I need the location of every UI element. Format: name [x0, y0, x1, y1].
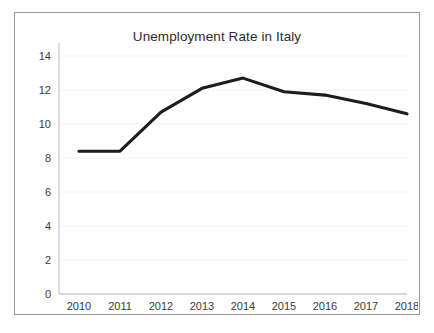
y-tick-label: 4 — [45, 220, 51, 232]
y-tick-label: 8 — [45, 152, 51, 164]
x-tick-label: 2011 — [108, 300, 132, 312]
data-series-line — [79, 78, 407, 151]
y-tick-label: 10 — [39, 118, 51, 130]
x-tick-label: 2013 — [190, 300, 214, 312]
y-tick-label: 6 — [45, 186, 51, 198]
x-tick-label: 2018 — [395, 300, 418, 312]
y-tick-label: 14 — [39, 50, 51, 62]
x-tick-label: 2017 — [354, 300, 378, 312]
x-axis-tick-labels: 2010 2011 2012 2013 2014 2015 2016 2017 … — [67, 300, 418, 312]
x-tick-label: 2010 — [67, 300, 91, 312]
y-tick-label: 12 — [39, 84, 51, 96]
x-tick-label: 2014 — [231, 300, 255, 312]
x-tick-label: 2015 — [272, 300, 296, 312]
chart-frame: Unemployment Rate in Italy 14 12 10 8 6 … — [14, 12, 420, 315]
gridlines-group — [59, 56, 407, 294]
y-axis-tick-labels: 14 12 10 8 6 4 2 0 — [39, 50, 51, 300]
x-tick-label: 2012 — [149, 300, 173, 312]
y-tick-label: 0 — [45, 288, 51, 300]
line-chart-plot: 14 12 10 8 6 4 2 0 2010 2011 2012 2013 2… — [15, 13, 418, 313]
x-tick-label: 2016 — [313, 300, 337, 312]
y-tick-label: 2 — [45, 254, 51, 266]
